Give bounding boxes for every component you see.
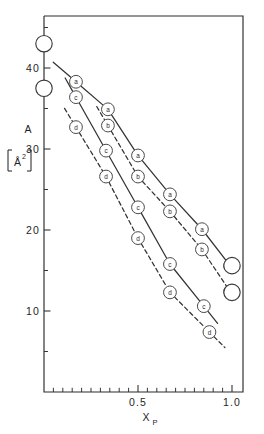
series-segment-c — [141, 213, 167, 259]
data-point-d: d — [164, 286, 177, 299]
plot-svg: 10203040 0.51.0 aaaaaabbbbbcccccddddd A … — [0, 0, 264, 434]
series-tail-d — [214, 337, 225, 348]
data-point-label: b — [136, 173, 140, 180]
y-tick-label: 30 — [26, 143, 40, 155]
data-point-label: d — [104, 173, 108, 180]
pure-component-upper-left — [36, 36, 52, 52]
data-point-label: d — [208, 329, 212, 336]
data-point-a: a — [196, 223, 209, 236]
data-point-d: d — [203, 326, 216, 339]
data-point-label: a — [200, 226, 204, 233]
x-axis-title-subscript: P — [152, 418, 157, 427]
series-segment-c — [109, 156, 135, 202]
series-lead-a — [53, 62, 71, 77]
y-axis-unit-exponent: 2 — [22, 153, 26, 160]
y-tick-label: 10 — [26, 305, 40, 317]
series-segment-d — [141, 244, 166, 287]
series-segment-a — [111, 115, 134, 150]
x-axis-ticks — [53, 385, 232, 392]
data-point-a: a — [102, 103, 115, 116]
data-point-label: b — [200, 246, 204, 253]
data-point-label: a — [74, 78, 78, 85]
data-point-b: b — [102, 119, 115, 132]
data-point-label: a — [168, 191, 172, 198]
data-point-c: c — [70, 91, 83, 104]
x-tick-label: 0.5 — [129, 396, 147, 408]
x-tick-label: 1.0 — [223, 396, 241, 408]
y-axis-unit-symbol: Å — [14, 156, 21, 168]
data-point-label: d — [168, 289, 172, 296]
y-tick-label: 20 — [26, 224, 40, 236]
data-point-b: b — [196, 243, 209, 256]
series-segment-c — [174, 269, 200, 301]
x-axis-title: X — [142, 411, 149, 423]
series-markers-group: aaaaaabbbbbcccccddddd — [70, 75, 237, 338]
pure-component-lower-right — [224, 284, 240, 300]
y-axis-title: A — [24, 123, 31, 135]
data-point-c: c — [164, 258, 177, 271]
data-point-label: b — [168, 208, 172, 215]
data-point-d: d — [70, 121, 83, 134]
series-segment-a — [174, 199, 197, 224]
series-segment-a — [81, 86, 103, 105]
chart-figure: 10203040 0.51.0 aaaaaabbbbbcccccddddd A … — [0, 0, 264, 434]
data-point-a: a — [70, 75, 83, 88]
x-axis-tick-labels: 0.51.0 — [129, 396, 241, 408]
data-point-label: b — [106, 122, 110, 129]
data-point-label: a — [136, 152, 140, 159]
data-point-d: d — [132, 232, 145, 245]
data-point-d: d — [100, 170, 113, 183]
data-point-c: c — [197, 300, 210, 313]
data-point-c: c — [100, 144, 113, 157]
data-point-label: a — [106, 106, 110, 113]
data-point-b: b — [132, 170, 145, 183]
series-lead-d — [65, 108, 73, 121]
pure-component-upper-right — [224, 257, 240, 273]
series-tail-c — [208, 311, 218, 323]
data-point-label: d — [74, 124, 78, 131]
y-axis-tick-labels: 10203040 — [26, 62, 40, 317]
y-axis-ticks — [44, 28, 51, 352]
y-tick-label: 40 — [26, 62, 40, 74]
series-segment-a — [142, 160, 166, 189]
data-point-a: a — [132, 149, 145, 162]
pure-component-lower-left — [36, 80, 52, 96]
data-point-b: b — [164, 205, 177, 218]
series-segment-b — [205, 255, 226, 286]
series-segment-a — [206, 234, 226, 260]
data-point-c: c — [132, 201, 145, 214]
data-point-label: d — [136, 235, 140, 242]
bracket-left-icon — [8, 150, 12, 171]
data-point-a: a — [164, 188, 177, 201]
